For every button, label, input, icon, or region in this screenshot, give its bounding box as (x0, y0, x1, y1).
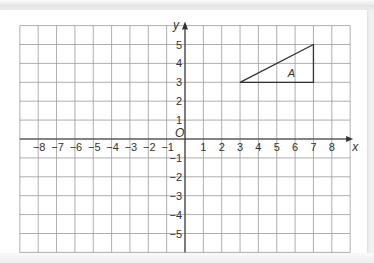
shape-label-a: A (287, 67, 295, 79)
x-tick-label: −4 (106, 141, 119, 153)
origin-label: O (175, 126, 184, 140)
x-tick-label: 7 (310, 141, 316, 153)
x-tick-label: −7 (51, 141, 64, 153)
x-axis-label: x (351, 140, 359, 154)
y-axis-label: y (172, 18, 180, 32)
x-tick-label: −3 (125, 141, 138, 153)
x-tick-label: −5 (88, 141, 101, 153)
x-tick-label: 3 (237, 141, 243, 153)
y-tick-label: 4 (176, 57, 182, 69)
x-tick-label: −2 (143, 141, 156, 153)
x-tick-label: 6 (292, 141, 298, 153)
x-tick-label: −6 (70, 141, 83, 153)
y-tick-label: −3 (169, 190, 182, 202)
y-tick-label: −5 (169, 228, 182, 240)
x-tick-label: 2 (219, 141, 225, 153)
x-tick-label: 8 (329, 141, 335, 153)
y-tick-label: 5 (176, 39, 182, 51)
y-tick-label: 3 (176, 76, 182, 88)
y-tick-label: −2 (169, 171, 182, 183)
coordinate-grid: xy−8−7−6−5−4−3−2−11234567854321−1−2−3−4−… (0, 0, 374, 263)
y-tick-label: −1 (169, 152, 182, 164)
x-tick-label: 4 (255, 141, 261, 153)
x-tick-label: 5 (274, 141, 280, 153)
y-tick-label: 2 (176, 95, 182, 107)
y-tick-label: 1 (176, 114, 182, 126)
x-tick-label: −8 (33, 141, 46, 153)
x-tick-label: 1 (200, 141, 206, 153)
y-tick-label: −4 (169, 209, 182, 221)
